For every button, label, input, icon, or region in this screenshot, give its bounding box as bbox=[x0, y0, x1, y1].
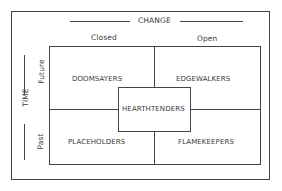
change-axis-line-left bbox=[70, 21, 130, 22]
change-axis-line-right bbox=[180, 21, 243, 22]
past-label: Past bbox=[36, 132, 45, 152]
future-label: Future bbox=[37, 59, 46, 85]
quadrant-placeholders: PLACEHOLDERS bbox=[68, 138, 125, 146]
quadrant-edgewalkers: EDGEWALKERS bbox=[176, 75, 230, 83]
quadrant-doomsayers: DOOMSAYERS bbox=[72, 75, 122, 83]
time-axis-line-bottom bbox=[24, 124, 25, 160]
change-axis-label: CHANGE bbox=[138, 16, 171, 25]
time-axis-label: TIME bbox=[21, 87, 30, 109]
open-label: Open bbox=[197, 34, 217, 43]
quadrant-flamekeepers: FLAMEKEEPERS bbox=[178, 138, 234, 146]
closed-label: Closed bbox=[91, 33, 117, 42]
center-hearthtenders: HEARTHTENDERS bbox=[122, 105, 185, 113]
